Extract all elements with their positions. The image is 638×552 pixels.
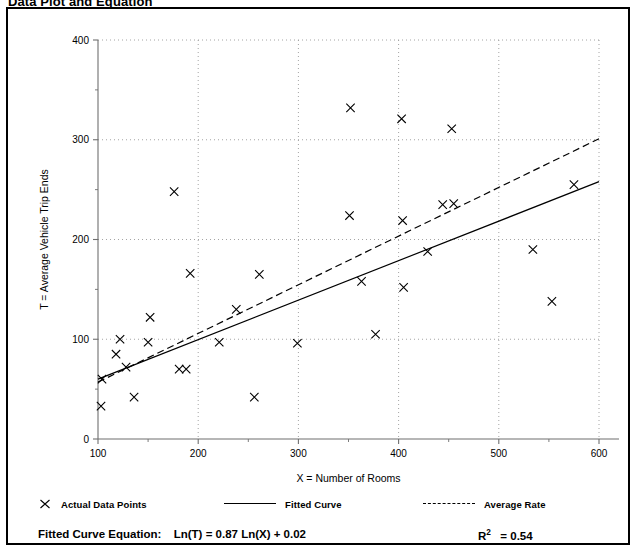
data-point-marker [397,115,405,123]
fitted-curve-equation: Fitted Curve Equation: Ln(T) = 0.87 Ln(X… [38,528,306,540]
y-axis-title: T = Average Vehicle Trip Ends [38,169,50,310]
data-point-marker [175,365,183,373]
data-point-marker [548,297,556,305]
r-squared-value: R2 = 0.54 [478,528,533,542]
data-point-marker [255,270,263,278]
legend-item-average-rate: Average Rate [423,498,546,510]
x-axis-tick-label: 400 [390,448,407,459]
equation-formula: Ln(T) = 0.87 Ln(X) + 0.02 [174,528,306,540]
x-axis-tick-label: 500 [490,448,507,459]
plot-area: 0100200300400100200300400500600T = Avera… [8,9,628,543]
equation-row: Fitted Curve Equation: Ln(T) = 0.87 Ln(X… [8,528,638,552]
legend-item-fitted-curve: Fitted Curve [224,498,342,510]
r2-exponent: 2 [486,528,491,537]
solid-line-icon [224,498,276,510]
data-point-marker [144,338,152,346]
r2-number: = 0.54 [500,530,532,542]
data-point-marker [293,339,301,347]
data-point-marker [450,199,458,207]
fitted-curve-line [98,182,599,380]
chart-legend: Actual Data Points Fitted Curve Average … [8,496,638,522]
scatter-chart: 0100200300400100200300400500600T = Avera… [8,9,628,543]
x-axis-title: X = Number of Rooms [296,472,400,484]
average-rate-line [98,139,599,382]
data-point-marker [529,245,537,253]
y-axis-tick-label: 0 [83,434,89,445]
data-point-marker [182,365,190,373]
data-point-marker [357,277,365,285]
figure-frame: 0100200300400100200300400500600T = Avera… [6,7,630,545]
data-point-marker [186,269,194,277]
data-point-marker [398,216,406,224]
data-point-marker [345,211,353,219]
legend-label-fitted-curve: Fitted Curve [285,499,342,510]
x-axis-tick-label: 600 [591,448,608,459]
data-point-marker [170,187,178,195]
data-point-marker [112,350,120,358]
legend-label-actual-data-points: Actual Data Points [61,499,147,510]
dashed-line-icon [423,498,475,510]
data-point-marker [438,200,446,208]
data-point-marker [130,393,138,401]
y-axis-tick-label: 100 [72,334,89,345]
legend-label-average-rate: Average Rate [484,499,546,510]
data-point-marker [232,305,240,313]
equation-label: Fitted Curve Equation: [38,528,161,540]
data-point-marker [371,330,379,338]
data-point-marker [250,393,258,401]
x-axis-tick-label: 100 [90,448,107,459]
data-point-marker [146,313,154,321]
x-marker-icon [38,498,52,510]
data-point-marker [448,125,456,133]
x-axis-tick-label: 200 [190,448,207,459]
y-axis-tick-label: 400 [72,35,89,46]
data-point-marker [346,104,354,112]
data-point-marker [399,283,407,291]
legend-item-actual-data-points: Actual Data Points [38,498,147,510]
data-point-marker [570,180,578,188]
y-axis-tick-label: 200 [72,234,89,245]
data-point-series [97,104,578,411]
x-axis-tick-label: 300 [290,448,307,459]
data-point-marker [215,338,223,346]
y-axis-tick-label: 300 [72,134,89,145]
